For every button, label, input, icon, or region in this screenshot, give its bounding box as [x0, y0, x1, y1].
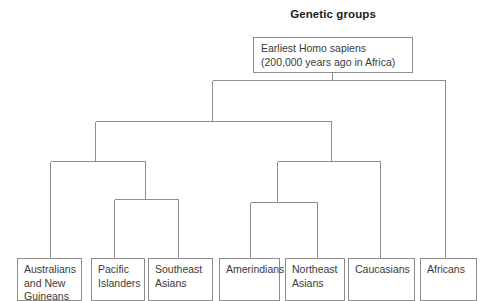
- node-africans: Africans: [420, 258, 477, 301]
- tree-branch-lines: [0, 0, 491, 301]
- node-southeast-asians: Southeast Asians: [148, 258, 213, 301]
- genetic-groups-diagram: Genetic groups: [0, 0, 491, 301]
- node-caucasians: Caucasians: [348, 258, 415, 301]
- node-northeast-asians: Northeast Asians: [285, 258, 345, 301]
- node-pacific-islanders: Pacific Islanders: [91, 258, 145, 301]
- root-label-line1: Earliest Homo sapiens: [261, 42, 407, 56]
- root-label-line2: (200,000 years ago in Africa): [261, 56, 407, 70]
- node-earliest-homo-sapiens: Earliest Homo sapiens (200,000 years ago…: [253, 37, 413, 73]
- node-amerindians: Amerindians: [219, 258, 280, 301]
- node-australians-and-new-guineans: Australians and New Guineans: [17, 258, 82, 301]
